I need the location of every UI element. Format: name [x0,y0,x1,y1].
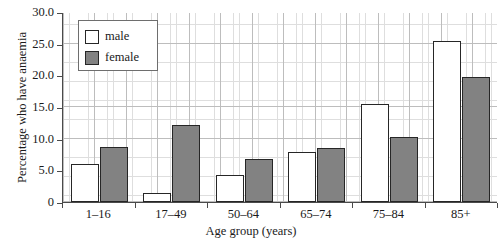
y-tick-mark [57,45,62,46]
legend-item-male: male [85,26,157,47]
x-tick-mark [280,203,281,208]
bar-male-85+ [433,41,461,203]
x-tick-mark [352,203,353,208]
legend-swatch-male-icon [85,30,99,44]
x-tick-mark [207,203,208,208]
x-tick-mark [135,203,136,208]
legend-swatch-female-icon [85,51,99,65]
x-tick-label-50-64: 50–64 [207,207,280,222]
x-tick-label-65-74: 65–74 [280,207,353,222]
bar-male-1-16 [71,164,99,202]
bar-female-17-49 [172,125,200,202]
bar-female-75-84 [390,137,418,202]
x-tick-mark [62,203,63,208]
bar-female-50-64 [245,159,273,202]
x-tick-mark [425,203,426,208]
bar-female-85+ [462,77,490,202]
bar-female-1-16 [100,147,128,202]
legend-label-female: female [105,51,139,64]
y-tick-mark [57,171,62,172]
y-tick-mark [57,76,62,77]
x-tick-mark [497,203,498,208]
x-tick-label-17-49: 17–49 [135,207,208,222]
x-tick-label-75-84: 75–84 [352,207,425,222]
bar-male-50-64 [216,175,244,202]
y-tick-mark [57,140,62,141]
y-tick-mark [57,13,62,14]
x-tick-label-1-16: 1–16 [62,207,135,222]
bar-male-17-49 [143,193,171,203]
legend-item-female: female [85,47,157,68]
x-axis-title: Age group (years) [0,224,502,239]
bar-male-75-84 [361,104,389,202]
legend-label-male: male [105,30,129,43]
bar-female-65-74 [317,148,345,202]
bar-male-65-74 [288,152,316,202]
y-axis-title: Percentage who have anaemia [15,8,30,208]
x-tick-label-85+: 85+ [425,207,498,222]
legend: male female [78,20,158,71]
bar-chart: 05.010.015.020.025.030.0 1–1617–4950–646… [0,0,502,244]
y-tick-mark [57,108,62,109]
